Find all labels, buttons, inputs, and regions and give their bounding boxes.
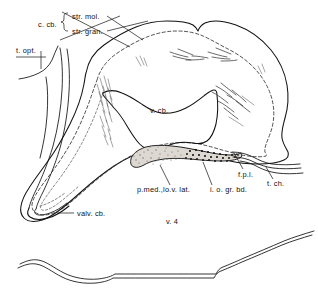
cerebellar-ventricle-cavity-group bbox=[103, 90, 218, 150]
leader-str-mol bbox=[107, 16, 143, 40]
label-layer: c. cb. str. mol. str. gran. t. opt. v. c… bbox=[16, 12, 284, 226]
label-v-4: v. 4 bbox=[166, 217, 178, 226]
optic-tract-lower-curve bbox=[40, 77, 48, 158]
label-t-opt: t. opt. bbox=[16, 46, 36, 55]
optic-tract-group bbox=[19, 46, 58, 158]
stippled-nucleus-band bbox=[131, 145, 242, 167]
cerebellar-ventricle-outline bbox=[103, 90, 218, 150]
leader-t-ch bbox=[266, 167, 273, 179]
valvula-cerebelli-group bbox=[28, 48, 70, 219]
label-c-cb: c. cb. bbox=[38, 20, 57, 29]
tail-inner-dashed-line bbox=[41, 92, 104, 210]
bottom-contour-group bbox=[18, 231, 314, 283]
label-f-p-l: f.p.l. bbox=[238, 170, 253, 179]
bottom-contour-upper bbox=[18, 235, 312, 283]
white-matter-fiber-marks bbox=[97, 48, 265, 147]
label-p-med-lo-v-lat: p.med.,lo.v. lat. bbox=[137, 185, 190, 194]
anatomical-diagram-svg: c. cb. str. mol. str. gran. t. opt. v. c… bbox=[0, 0, 318, 298]
figure-root: c. cb. str. mol. str. gran. t. opt. v. c… bbox=[0, 0, 318, 298]
bottom-contour-lower bbox=[20, 231, 314, 279]
leader-i-o-gr-bd bbox=[203, 162, 212, 185]
leader-lines-group bbox=[16, 12, 273, 213]
label-t-ch: t. ch. bbox=[267, 179, 284, 188]
label-str-gran: str. gran. bbox=[72, 27, 103, 36]
label-i-o-gr-bd: i. o. gr. bd. bbox=[210, 185, 247, 194]
brace-c-cb bbox=[61, 13, 68, 31]
tail-inner-dashed-group bbox=[41, 92, 104, 210]
stippled-nucleus-band-group bbox=[131, 145, 242, 167]
valvula-granular-dashes bbox=[40, 193, 65, 206]
valvula-inner-limb bbox=[36, 49, 69, 209]
label-v-cb: v. cb. bbox=[150, 106, 168, 115]
label-str-mol: str. mol. bbox=[72, 12, 100, 21]
leader-p-med bbox=[160, 165, 170, 185]
label-valv-cb: valv. cb. bbox=[77, 209, 105, 218]
